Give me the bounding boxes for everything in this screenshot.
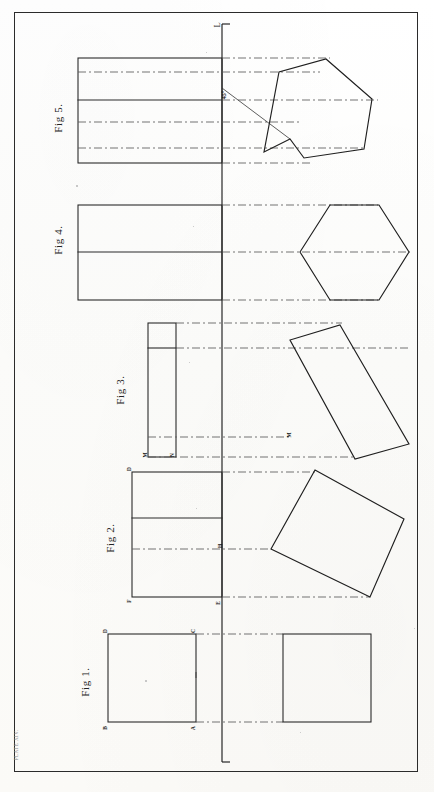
figure-2-point-E: E bbox=[215, 601, 221, 605]
fig2-elevation-rect bbox=[132, 472, 222, 597]
figure-1-label: Fig 1. bbox=[79, 658, 91, 706]
fig4-plan-hexagon bbox=[300, 205, 409, 300]
figure-2-label: Fig 2. bbox=[104, 514, 116, 562]
figure-5-angle-label: 45° bbox=[221, 91, 227, 99]
fig1-plan-square bbox=[283, 634, 371, 722]
paper-speck bbox=[145, 680, 147, 682]
figure-3-point-M2: M bbox=[286, 432, 292, 437]
paper-speck bbox=[76, 185, 78, 187]
figure-1-point-B: B bbox=[102, 726, 108, 730]
plate-caption: PLATE XIV. bbox=[13, 715, 19, 775]
fig5-inclined-45-line bbox=[222, 88, 290, 139]
figure-1-group bbox=[108, 634, 371, 722]
ground-line-label-L: L bbox=[212, 22, 222, 27]
technical-drawing-canvas: .solid { stroke:#222222; stroke-width:1.… bbox=[0, 0, 434, 792]
figure-1-point-D: D bbox=[102, 629, 108, 633]
fig2-plan-square bbox=[271, 470, 404, 597]
figure-3-point-M1: M bbox=[142, 452, 148, 457]
figure-3-group bbox=[148, 323, 410, 459]
figure-1-point-A: A bbox=[190, 726, 196, 730]
ground-line-group bbox=[222, 24, 230, 762]
figure-4-group bbox=[78, 205, 410, 300]
figure-4-label: Fig 4. bbox=[52, 216, 64, 264]
figure-3-point-N: N bbox=[169, 453, 175, 457]
fig5-plan-heptagon bbox=[264, 59, 372, 158]
figure-5-group bbox=[78, 58, 378, 163]
figure-2-point-H: H bbox=[217, 544, 223, 548]
figure-3-label: Fig 3. bbox=[114, 366, 126, 414]
figure-2-point-F: F bbox=[126, 599, 132, 602]
figure-2-point-D: D bbox=[126, 467, 132, 471]
figure-2-group bbox=[132, 470, 404, 597]
fig3-plan-rectangle bbox=[290, 325, 409, 459]
fig5-elevation-rect bbox=[78, 58, 222, 163]
fig1-elevation-square bbox=[108, 634, 196, 722]
figure-1-point-C: C bbox=[190, 629, 196, 633]
figure-5-label: Fig 5. bbox=[52, 94, 64, 142]
drawing-plate: .solid { stroke:#222222; stroke-width:1.… bbox=[0, 0, 434, 792]
